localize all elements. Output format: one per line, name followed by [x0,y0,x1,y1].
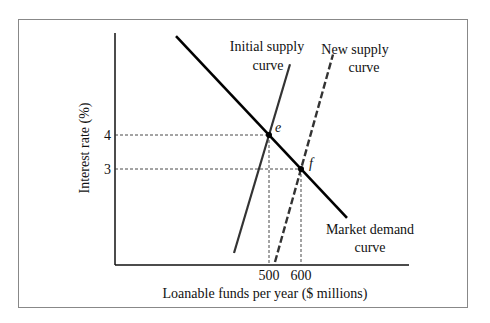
new-supply-label-line2: curve [348,60,379,75]
x-tick-label-600: 600 [291,268,312,283]
point-label-e: e [275,120,281,135]
y-tick-label-3: 3 [104,162,111,177]
new-supply-label-line1: New supply [321,42,388,57]
initial-supply-label-line1: Initial supply [230,39,304,54]
demand-label-line2: curve [354,240,385,255]
equilibrium-point-f [298,166,304,172]
x-tick-label-500: 500 [259,268,280,283]
chart: 4 3 500 600 Loanable funds per year ($ m… [0,0,490,323]
y-tick-label-4: 4 [104,128,111,143]
x-axis-label: Loanable funds per year ($ millions) [163,286,368,302]
equilibrium-point-e [266,132,272,138]
demand-label-line1: Market demand [326,222,414,237]
initial-supply-label-line2: curve [252,58,283,73]
y-axis-label: Interest rate (%) [77,102,93,193]
initial-supply-curve [234,64,290,253]
point-label-f: f [309,156,315,171]
